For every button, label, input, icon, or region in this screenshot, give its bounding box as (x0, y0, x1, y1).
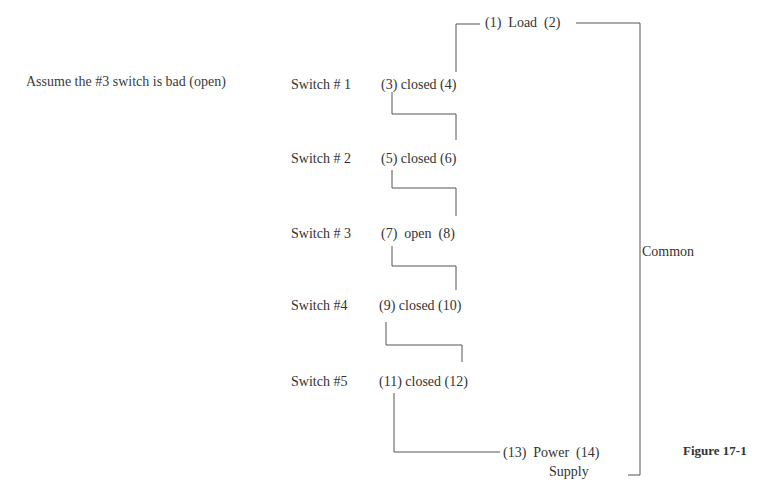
wire-s3-s4 (392, 246, 456, 290)
problem-note: Assume the #3 switch is bad (open) (26, 74, 226, 90)
wire-s5-to-power (394, 393, 500, 452)
power-supply-sublabel: Supply (549, 464, 589, 480)
switch-5-name: Switch #5 (291, 374, 347, 390)
switch-2-state: (5) closed (6) (381, 151, 456, 167)
power-supply-label: (13) Power (14) (503, 445, 599, 461)
switch-3-state: (7) open (8) (381, 226, 455, 242)
switch-2-name: Switch # 2 (291, 151, 351, 167)
wire-common (576, 23, 640, 475)
switch-1-state: (3) closed (4) (381, 77, 456, 93)
switch-4-state: (9) closed (10) (379, 298, 461, 314)
wire-s1-s2 (392, 92, 456, 140)
switch-5-state: (11) closed (12) (379, 374, 468, 390)
wire-s4-s5 (386, 322, 462, 362)
switch-1-name: Switch # 1 (291, 77, 351, 93)
switch-3-name: Switch # 3 (291, 226, 351, 242)
wire-s2-s3 (392, 170, 456, 216)
figure-caption: Figure 17-1 (683, 443, 747, 459)
common-label: Common (642, 244, 694, 260)
load-label: (1) Load (2) (485, 15, 560, 31)
wire-load-to-switch1 (456, 24, 480, 72)
switch-4-name: Switch #4 (291, 298, 347, 314)
